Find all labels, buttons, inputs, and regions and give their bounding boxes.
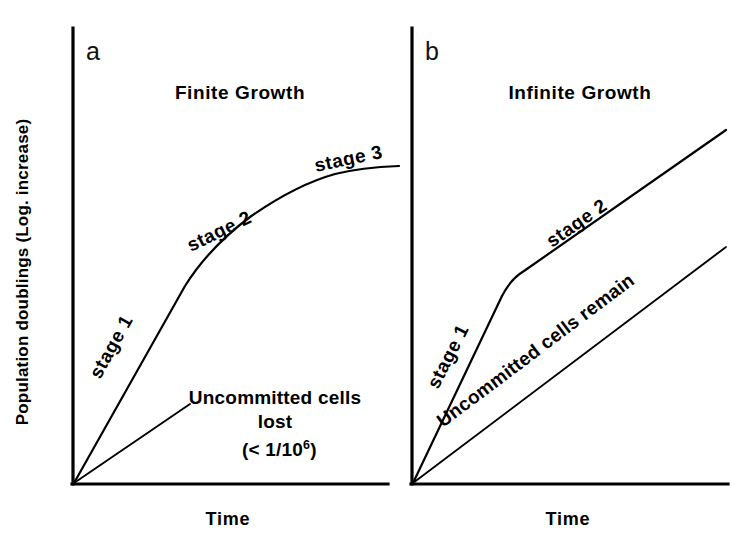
panel-b-stage-2-label: stage 2 [542, 195, 611, 252]
panel-b-x-axis-title: Time [546, 509, 591, 529]
panel-a-letter: a [86, 37, 100, 65]
y-axis-title-text: Population doublings (Log. increase) [13, 119, 32, 426]
panel-a-x-axis-title: Time [206, 509, 251, 529]
panel-b-title: Infinite Growth [508, 82, 651, 103]
panel-b-uncommitted-line [413, 247, 726, 483]
panel-a-annotation-superscript: 6 [303, 438, 310, 452]
panel-a-annotation: Uncommitted cells lost (< 1/106) [189, 387, 361, 460]
panel-a-annotation-line2: lost [258, 411, 293, 432]
panel-b-annotation-line1: Uncommitted cells remain [433, 269, 638, 431]
panel-a-annotation-prefix: (< 1/10 [242, 439, 303, 460]
panel-a-title: Finite Growth [175, 82, 305, 103]
panel-b-growth-curve [413, 130, 726, 483]
panel-a: a Finite Growth stage 1 stage 2 stage 3 … [72, 28, 399, 529]
growth-curves-figure: Population doublings (Log. increase) a F… [0, 0, 746, 554]
panel-b-stage-1-label: stage 1 [423, 321, 473, 392]
panel-a-annotation-suffix: ) [310, 439, 317, 460]
y-axis-title: Population doublings (Log. increase) [13, 119, 32, 426]
panel-a-uncommitted-line [74, 404, 190, 483]
panel-b-letter: b [425, 37, 439, 65]
panel-a-stage-1-label: stage 1 [85, 311, 137, 382]
panel-b: b Infinite Growth stage 1 stage 2 Uncomm… [411, 28, 728, 529]
panel-a-stage-2-label: stage 2 [184, 206, 255, 255]
panel-a-annotation-line3: (< 1/106) [242, 438, 317, 460]
panel-a-annotation-line1: Uncommitted cells [189, 387, 361, 408]
